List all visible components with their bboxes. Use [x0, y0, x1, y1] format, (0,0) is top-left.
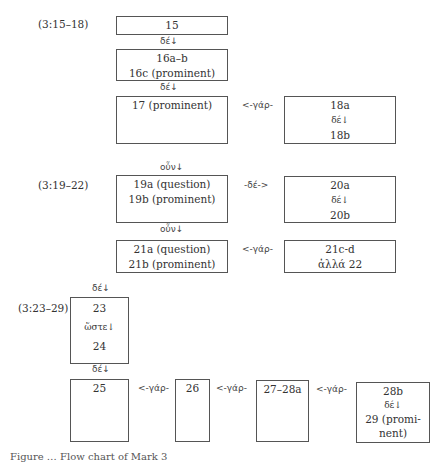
box-27: 27–28a: [256, 380, 309, 442]
box-line: 20a: [285, 178, 395, 193]
box-line: 18b: [285, 128, 395, 143]
box-23: 23 ὥστε↓ 24: [70, 297, 129, 364]
connector-de-3: -δέ->: [244, 180, 268, 190]
box-line: 17 (prominent): [117, 98, 227, 113]
section-ref-3: (3:23–29): [18, 302, 68, 314]
box-19: 19a (question) 19b (prominent): [116, 175, 228, 223]
box-line: 26: [176, 381, 209, 396]
box-line: 16a–b: [117, 51, 227, 66]
connector-oun-2: οὖν↓: [160, 224, 183, 234]
box-21: 21a (question) 21b (prominent): [116, 240, 228, 273]
box-line: 15: [117, 18, 227, 33]
connector-de-2: δέ↓: [160, 82, 178, 92]
box-line: δέ↓: [285, 113, 395, 128]
box-line: nent): [357, 426, 429, 440]
box-21c: 21c-d ἀλλά 22: [284, 240, 396, 273]
box-20: 20a δέ↓ 20b: [284, 176, 396, 223]
box-16: 16a–b 16c (prominent): [116, 49, 228, 81]
box-26: 26: [175, 379, 210, 442]
box-line: 24: [71, 337, 128, 356]
figure-caption: Figure … Flow chart of Mark 3: [10, 451, 167, 462]
connector-gar-5: <-γάρ-: [316, 384, 347, 394]
box-15: 15: [116, 16, 228, 35]
connector-oun-1: οὖν↓: [160, 162, 183, 172]
box-line: 20b: [285, 208, 395, 223]
box-line: 21b (prominent): [117, 257, 227, 272]
box-line: 29 (promi-: [357, 412, 429, 426]
box-line: 19b (prominent): [117, 192, 227, 207]
box-line: δέ↓: [285, 193, 395, 208]
box-line: 28b: [357, 384, 429, 398]
section-ref-1: (3:15–18): [38, 18, 88, 30]
box-line: 21a (question): [117, 242, 227, 257]
connector-de-5: δέ↓: [92, 364, 110, 374]
box-28: 28b δέ↓ 29 (promi- nent): [356, 382, 430, 443]
box-line: ὥστε↓: [71, 318, 128, 337]
box-line: 16c (prominent): [117, 66, 227, 81]
connector-de-1: δέ↓: [160, 36, 178, 46]
box-line: 21c-d: [285, 242, 395, 257]
connector-gar-1: <-γάρ-: [242, 100, 273, 110]
box-17: 17 (prominent): [116, 96, 228, 144]
connector-gar-2: <-γάρ-: [242, 244, 273, 254]
box-line: 27–28a: [257, 382, 308, 397]
box-line: 18a: [285, 98, 395, 113]
box-line: ἀλλά 22: [285, 257, 395, 272]
box-25: 25: [70, 379, 129, 442]
connector-de-4: δέ↓: [92, 283, 110, 293]
box-line: 23: [71, 299, 128, 318]
box-line: δέ↓: [357, 398, 429, 412]
box-18: 18a δέ↓ 18b: [284, 96, 396, 144]
section-ref-2: (3:19–22): [38, 179, 88, 191]
box-line: 19a (question): [117, 177, 227, 192]
connector-gar-4: <-γάρ-: [216, 383, 247, 393]
box-line: 25: [71, 381, 128, 396]
connector-gar-3: <-γάρ-: [138, 383, 169, 393]
